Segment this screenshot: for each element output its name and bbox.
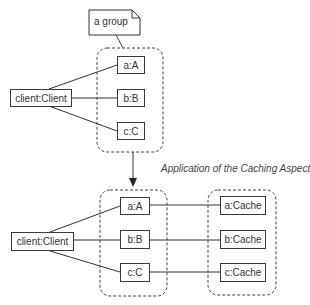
- cache-a: a:Cache: [220, 196, 266, 215]
- cache-b: b:Cache: [220, 230, 266, 249]
- top-object-c: c:C: [117, 122, 145, 140]
- bottom-object-b: b:B: [120, 230, 150, 249]
- bottom-client-box: client:Client: [11, 232, 74, 251]
- note-label: a group: [94, 16, 128, 27]
- bottom-object-c: c:C: [120, 263, 150, 282]
- diagram-lines: [0, 0, 310, 305]
- cache-c: c:Cache: [220, 263, 266, 282]
- note-anchor-line: [116, 35, 123, 48]
- bottom-object-a: a:A: [120, 197, 150, 215]
- arrow-head-icon: [129, 178, 137, 187]
- top-client-box: client:Client: [10, 89, 72, 107]
- top-object-a: a:A: [117, 56, 145, 74]
- transition-caption: Application of the Caching Aspect: [161, 163, 310, 174]
- top-object-b: b:B: [117, 89, 145, 107]
